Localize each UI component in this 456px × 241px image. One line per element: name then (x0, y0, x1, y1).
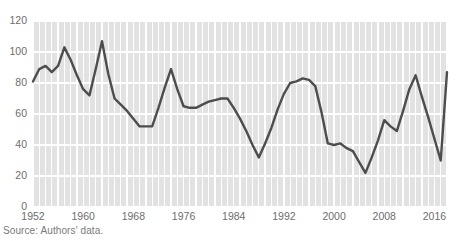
y-tick-label: 60 (15, 107, 27, 119)
y-tick-label: 40 (15, 138, 27, 150)
x-tick-label: 1968 (122, 210, 146, 222)
x-tick-label: 1976 (172, 210, 196, 222)
y-axis-tick-labels: 020406080100120 (9, 14, 27, 212)
x-tick-label: 1952 (21, 210, 45, 222)
chart-figure: 020406080100120 195219601968197619841992… (0, 0, 456, 241)
x-tick-label: 1984 (222, 210, 246, 222)
y-tick-label: 100 (9, 45, 27, 57)
x-tick-label: 2016 (423, 210, 447, 222)
y-tick-label: 120 (9, 14, 27, 26)
x-axis-tick-labels: 195219601968197619841992200020082016 (21, 210, 446, 222)
x-tick-label: 2000 (322, 210, 346, 222)
x-tick-label: 1992 (272, 210, 296, 222)
y-tick-label: 20 (15, 169, 27, 181)
line-chart: 020406080100120 195219601968197619841992… (0, 0, 456, 241)
source-note: Source: Authors' data. (3, 225, 103, 236)
x-tick-label: 2008 (373, 210, 397, 222)
x-tick-label: 1960 (72, 210, 96, 222)
y-tick-label: 80 (15, 76, 27, 88)
